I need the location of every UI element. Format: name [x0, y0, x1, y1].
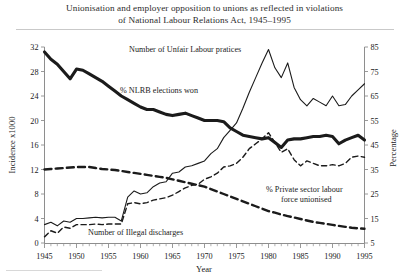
y-axis-right-ticks: 51525354555657585 — [365, 43, 379, 248]
chart-svg: 048121620242832 51525354555657585 194519… — [0, 0, 409, 276]
x-tick-label: 1970 — [196, 252, 212, 261]
y-tick-label-left: 16 — [30, 141, 38, 150]
x-tick-label: 1965 — [164, 252, 180, 261]
x-tick-label: 1975 — [228, 252, 244, 261]
y-tick-label-right: 75 — [371, 68, 379, 77]
y-axis-left-title: Incidence x1000 — [7, 116, 17, 173]
series-label-private-unionised-line2: force unionised — [281, 195, 332, 204]
series-label-illegal-discharges: Number of Illegal discharges — [88, 228, 183, 237]
series-label-private-unionised-line1: % Private sector labour — [266, 185, 343, 194]
y-tick-label-right: 85 — [371, 43, 379, 52]
y-tick-label-right: 35 — [371, 166, 379, 175]
x-tick-label: 1980 — [260, 252, 276, 261]
y-tick-label-right: 25 — [371, 190, 379, 199]
y-tick-label-left: 32 — [30, 43, 38, 52]
x-tick-label: 1945 — [36, 252, 52, 261]
x-axis-title: Year — [196, 264, 212, 274]
y-tick-label-right: 65 — [371, 92, 379, 101]
figure-container: Unionisation and employer opposition to … — [0, 0, 409, 276]
series-label-nlrb-elections: % NLRB elections won — [120, 86, 198, 95]
y-tick-label-right: 45 — [371, 141, 379, 150]
y-tick-label-left: 24 — [30, 92, 38, 101]
y-axis-right-title: Percentage — [388, 129, 398, 167]
y-tick-label-left: 4 — [34, 215, 38, 224]
y-tick-label-left: 0 — [34, 239, 38, 248]
x-axis-ticks: 1945195019551960196519701975198019851990… — [36, 243, 372, 261]
x-tick-label: 1985 — [292, 252, 308, 261]
x-tick-label: 1990 — [324, 252, 340, 261]
data-curves-group — [45, 49, 365, 236]
x-tick-label: 1995 — [356, 252, 372, 261]
y-tick-label-left: 28 — [30, 68, 38, 77]
y-axis-left-ticks: 048121620242832 — [30, 43, 44, 248]
y-tick-label-right: 55 — [371, 117, 379, 126]
y-tick-label-right: 15 — [371, 215, 379, 224]
y-tick-label-right: 5 — [371, 239, 375, 248]
y-tick-label-left: 20 — [30, 117, 38, 126]
x-tick-label: 1955 — [100, 252, 116, 261]
x-tick-label: 1960 — [132, 252, 148, 261]
y-tick-label-left: 8 — [34, 190, 38, 199]
y-tick-label-left: 12 — [30, 166, 38, 175]
x-tick-label: 1950 — [68, 252, 84, 261]
series-label-unfair-practices: Number of Unfair Labour pratices — [129, 45, 241, 54]
